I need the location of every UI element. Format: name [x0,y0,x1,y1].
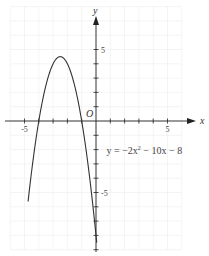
y-tick-label: -5 [101,189,108,198]
equation-part-2: − 10x − 8 [141,145,182,156]
x-tick-label: -5 [21,125,28,134]
y-axis-arrow [93,16,99,25]
tick-labels: -555-5 [21,46,169,198]
equation-label: y = −2x2 − 10x − 8 [107,145,183,156]
y-tick-label: 5 [101,46,105,55]
y-axis-label: y [92,5,98,16]
x-tick-label: 5 [166,125,170,134]
x-axis-arrow [187,118,196,124]
equation-part-1: y = −2x [107,145,138,156]
origin-label: O [86,108,93,119]
x-axis-label: x [199,115,205,126]
chart: x y O -555-5 y = −2x2 − 10x − 8 [0,0,209,256]
